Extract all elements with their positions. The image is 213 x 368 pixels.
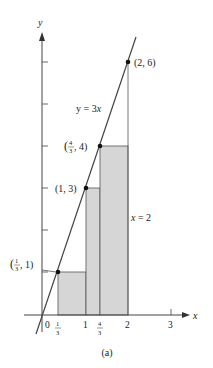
point-1-3-1 xyxy=(56,270,61,275)
x-axis-arrow-icon xyxy=(182,312,190,318)
rectangle-3 xyxy=(100,146,128,315)
line-label-lhs: y = 3 xyxy=(76,103,97,114)
x-tick-label-4-3-num: 4 xyxy=(98,320,102,327)
point-label-1-3-post: , 1) xyxy=(20,259,33,271)
x-tick-label-4-3-den: 3 xyxy=(98,329,101,336)
vertical-line-label: x = 2 xyxy=(130,212,151,223)
line-label: y = 3x xyxy=(76,103,102,114)
point-label-2-6: (2, 6) xyxy=(134,57,156,69)
y-axis-label: y xyxy=(37,17,43,28)
point-label-1-3: (1, 3) xyxy=(55,183,77,195)
figure-canvas: y x 0 1 3 1 4 3 2 3 (2, 6) (1, 3) ( 4 3 … xyxy=(0,0,213,368)
line-label-var: x xyxy=(96,103,102,114)
x-tick-label-0: 0 xyxy=(45,320,50,330)
point-1-3 xyxy=(84,186,89,191)
point-label-1-3-pre: ( xyxy=(10,257,14,271)
rectangle-1 xyxy=(58,272,86,315)
x-axis-label: x xyxy=(192,310,198,321)
figure-caption: (a) xyxy=(101,347,112,359)
point-label-1-3-num: 1 xyxy=(15,257,18,264)
y-axis-arrow-icon xyxy=(39,32,45,41)
point-4-3-4 xyxy=(98,144,103,149)
point-label-1-3-den: 3 xyxy=(15,265,18,272)
rectangle-2 xyxy=(86,188,100,315)
y-ticks xyxy=(42,62,48,272)
point-label-4-3-num: 4 xyxy=(69,139,73,146)
point-label-4-3-post: , 4) xyxy=(74,141,87,153)
x-tick-label-1: 1 xyxy=(83,320,88,330)
point-label-4-3-den: 3 xyxy=(69,147,72,154)
x-tick-label-2: 2 xyxy=(125,320,130,330)
point-label-4-3-pre: ( xyxy=(64,139,68,153)
x-tick-label-1-3-den: 3 xyxy=(56,329,59,336)
x-tick-label-1-3-num: 1 xyxy=(56,320,59,327)
point-2-6 xyxy=(126,60,131,65)
vertical-line-label-rest: = 2 xyxy=(135,212,151,223)
x-tick-label-3: 3 xyxy=(168,320,173,330)
